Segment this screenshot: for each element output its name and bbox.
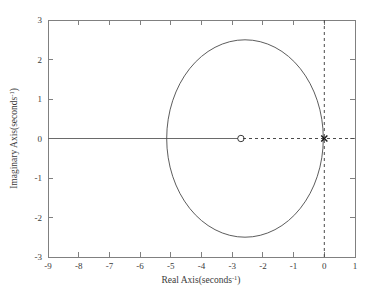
x-tick-label: -5 (167, 261, 175, 271)
y-axis-title-tail: ) (9, 88, 20, 91)
y-tick-label: -2 (35, 213, 43, 223)
root-locus-figure: -9 -8 -7 -6 -5 -4 -3 -2 -1 0 1 -3 -2 -1 … (0, 0, 365, 297)
y-tick-label: 1 (38, 94, 43, 104)
y-tick-label: -3 (35, 252, 43, 262)
x-tick-label: -6 (136, 261, 144, 271)
x-tick-label: -8 (75, 261, 83, 271)
x-axis-ticks (48, 252, 355, 257)
x-axis-ticks-top (79, 20, 325, 25)
x-axis-title-main: Real Axis(seconds (161, 275, 232, 286)
x-tick-label: -7 (106, 261, 114, 271)
y-tick-label: 0 (38, 134, 43, 144)
y-tick-label: 3 (38, 15, 43, 25)
x-axis-title: Real Axis(seconds-1) (161, 274, 240, 287)
x-tick-labels: -9 -8 -7 -6 -5 -4 -3 -2 -1 0 1 (44, 261, 357, 271)
x-axis-title-tail: ) (237, 275, 240, 286)
x-tick-label: -4 (198, 261, 206, 271)
y-axis-title-main: Imaginary Axis(seconds (9, 96, 20, 188)
y-axis-title: Imaginary Axis(seconds-1) (8, 88, 21, 189)
y-tick-labels: -3 -2 -1 0 1 2 3 (35, 15, 43, 262)
x-tick-label: 1 (353, 261, 358, 271)
x-tick-label: -3 (228, 261, 236, 271)
x-tick-label: -9 (44, 261, 52, 271)
y-tick-label: -1 (35, 173, 43, 183)
plot-canvas: -9 -8 -7 -6 -5 -4 -3 -2 -1 0 1 -3 -2 -1 … (0, 0, 365, 297)
x-tick-label: -1 (290, 261, 298, 271)
x-tick-label: 0 (322, 261, 327, 271)
x-tick-label: -2 (259, 261, 267, 271)
y-tick-label: 2 (38, 55, 43, 65)
